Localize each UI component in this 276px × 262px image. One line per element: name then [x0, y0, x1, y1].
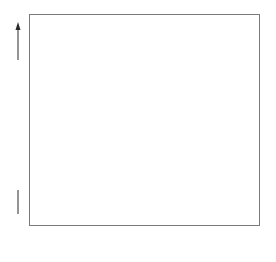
y-axis-label-container [5, 20, 25, 215]
plot-frame [29, 14, 260, 226]
